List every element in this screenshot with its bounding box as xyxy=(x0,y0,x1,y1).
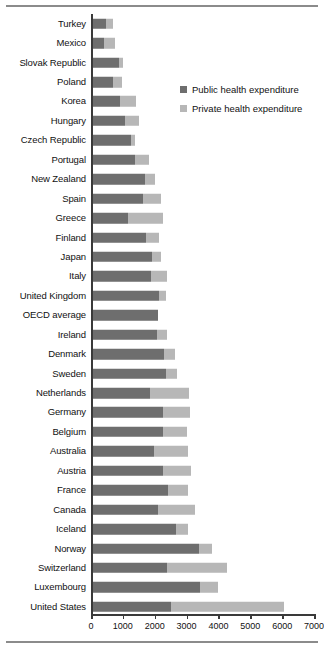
bar-segment-public xyxy=(91,174,145,185)
category-label: Netherlands xyxy=(36,388,91,398)
x-axis-tick-label: 1000 xyxy=(113,621,133,631)
stacked-bar xyxy=(91,407,190,418)
bar-segment-private xyxy=(146,232,158,243)
category-label: France xyxy=(57,485,91,495)
stacked-bar xyxy=(91,582,218,593)
bar-row: Greece xyxy=(0,208,324,227)
category-label: Japan xyxy=(61,252,91,262)
bar-row: Italy xyxy=(0,267,324,286)
stacked-bar xyxy=(91,602,284,613)
bar-row: Ireland xyxy=(0,325,324,344)
x-axis-tick xyxy=(155,614,157,619)
category-label: Mexico xyxy=(57,38,92,48)
category-label: Ireland xyxy=(58,330,91,340)
x-axis-tick xyxy=(282,614,284,619)
category-label: Hungary xyxy=(51,116,91,126)
bar-row: Japan xyxy=(0,247,324,266)
bar-segment-public xyxy=(91,213,128,224)
category-label: United States xyxy=(30,602,91,612)
bar-segment-public xyxy=(91,116,125,127)
bar-segment-public xyxy=(91,252,152,263)
stacked-bar xyxy=(91,57,123,68)
bar-segment-private xyxy=(143,193,161,204)
bar-row: Australia xyxy=(0,442,324,461)
x-axis-tick-label: 0 xyxy=(88,621,93,631)
bar-row: OECD average xyxy=(0,306,324,325)
legend-swatch-public-icon xyxy=(180,86,187,93)
stacked-bar xyxy=(91,193,161,204)
bar-row: New Zealand xyxy=(0,170,324,189)
bar-segment-public xyxy=(91,77,113,88)
category-label: Austria xyxy=(57,466,91,476)
bar-segment-public xyxy=(91,18,106,29)
bar-segment-private xyxy=(154,446,188,457)
bar-segment-private xyxy=(119,57,123,68)
bar-segment-private xyxy=(106,18,113,29)
stacked-bar xyxy=(91,504,195,515)
bar-segment-private xyxy=(168,485,188,496)
stacked-bar xyxy=(91,291,166,302)
bar-segment-private xyxy=(120,96,137,107)
stacked-bar xyxy=(91,232,159,243)
stacked-bar xyxy=(91,310,158,321)
stacked-bar xyxy=(91,77,122,88)
stacked-bar xyxy=(91,349,175,360)
stacked-bar xyxy=(91,135,135,146)
stacked-bar xyxy=(91,329,167,340)
x-axis-tick-label: 6000 xyxy=(272,621,292,631)
bar-segment-public xyxy=(91,271,151,282)
bar-segment-private xyxy=(145,174,155,185)
category-label: Canada xyxy=(53,505,91,515)
bar-row: France xyxy=(0,481,324,500)
bar-row: Sweden xyxy=(0,364,324,383)
x-axis: 01000200030004000500060007000 xyxy=(0,614,324,644)
category-label: Australia xyxy=(50,446,91,456)
bar-row: Switzerland xyxy=(0,558,324,577)
stacked-bar xyxy=(91,18,113,29)
bar-segment-private xyxy=(157,329,167,340)
category-label: OECD average xyxy=(23,310,91,320)
bar-segment-public xyxy=(91,504,158,515)
x-axis-tick-label: 4000 xyxy=(208,621,228,631)
bar-segment-private xyxy=(164,349,176,360)
bar-segment-public xyxy=(91,349,164,360)
bar-segment-private xyxy=(159,291,166,302)
x-axis-line xyxy=(91,614,314,616)
bar-row: United Kingdom xyxy=(0,286,324,305)
bar-row: Turkey xyxy=(0,14,324,33)
x-axis-tick-label: 2000 xyxy=(145,621,165,631)
category-label: Germany xyxy=(48,407,91,417)
x-axis-tick-label: 5000 xyxy=(240,621,260,631)
bar-segment-private xyxy=(199,543,212,554)
x-axis-tick-label: 7000 xyxy=(304,621,324,631)
bar-segment-public xyxy=(91,524,176,535)
bar-segment-private xyxy=(104,38,114,49)
category-label: Spain xyxy=(62,194,91,204)
bar-row: Portugal xyxy=(0,150,324,169)
bar-segment-public xyxy=(91,96,120,107)
stacked-bar xyxy=(91,524,188,535)
bar-segment-private xyxy=(135,155,149,166)
bar-segment-private xyxy=(163,466,190,477)
bar-segment-private xyxy=(128,213,164,224)
bar-row: Iceland xyxy=(0,519,324,538)
stacked-bar xyxy=(91,446,188,457)
x-axis-tick xyxy=(314,614,316,619)
bar-segment-private xyxy=(151,271,168,282)
stacked-bar xyxy=(91,155,149,166)
bar-segment-public xyxy=(91,291,159,302)
bar-row: Luxembourg xyxy=(0,578,324,597)
bar-segment-public xyxy=(91,427,163,438)
bar-segment-public xyxy=(91,57,119,68)
bar-segment-private xyxy=(113,77,123,88)
category-label: New Zealand xyxy=(31,174,91,184)
bar-segment-public xyxy=(91,135,131,146)
bar-segment-public xyxy=(91,602,171,613)
bar-segment-public xyxy=(91,388,150,399)
bar-segment-public xyxy=(91,329,157,340)
stacked-bar xyxy=(91,466,191,477)
bar-segment-public xyxy=(91,407,163,418)
bar-segment-public xyxy=(91,368,166,379)
x-axis-tick xyxy=(218,614,220,619)
bar-segment-private xyxy=(176,524,188,535)
